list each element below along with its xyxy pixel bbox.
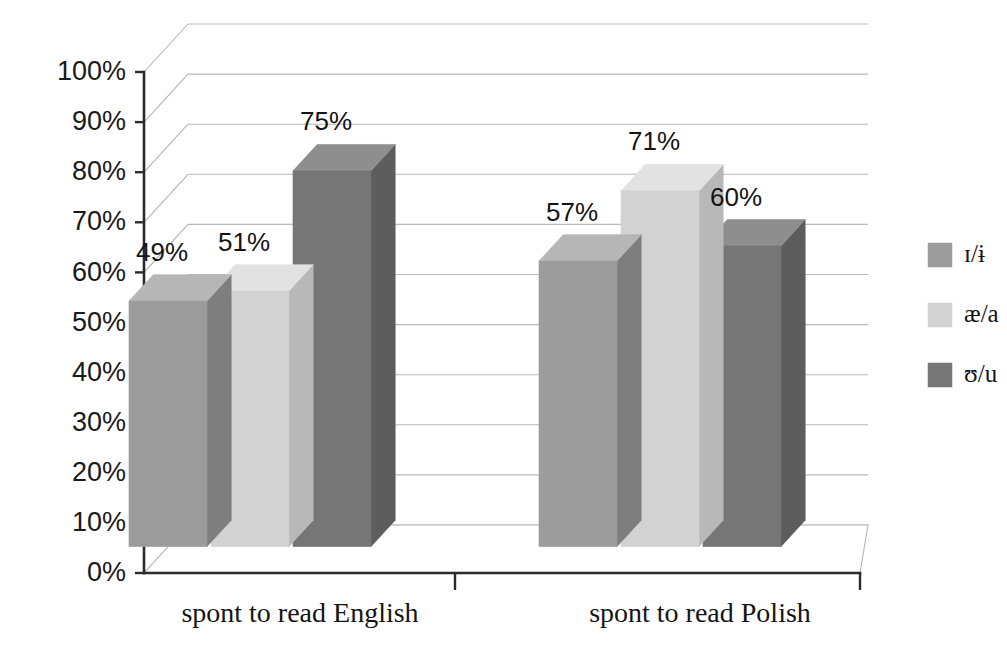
x-category-label: spont to read Polish — [589, 597, 811, 628]
value-label: 51% — [218, 227, 270, 257]
x-category-label: spont to read English — [181, 597, 418, 628]
value-label: 49% — [136, 237, 188, 267]
legend-swatch — [928, 243, 952, 267]
legend-label: ʊ/u — [964, 360, 998, 387]
legend-swatch — [928, 303, 952, 327]
legend-swatch — [928, 363, 952, 387]
y-tick-label: 50% — [72, 307, 126, 337]
y-tick-label: 30% — [72, 407, 126, 437]
legend-item-2[interactable]: æ/a — [928, 300, 999, 327]
value-label: 57% — [546, 197, 598, 227]
bar-1-1 — [129, 275, 231, 547]
y-tick-label: 100% — [57, 56, 126, 86]
bar-side-face — [371, 144, 395, 546]
y-tick-label: 10% — [72, 507, 126, 537]
y-tick-label: 20% — [72, 457, 126, 487]
bar-front-face — [539, 261, 617, 547]
value-label: 75% — [300, 106, 352, 136]
bar-side-face — [289, 265, 313, 547]
bar-side-face — [781, 220, 805, 547]
y-tick-label: 40% — [72, 357, 126, 387]
y-tick-label: 0% — [87, 557, 126, 587]
value-label: 60% — [710, 182, 762, 212]
y-tick-label: 70% — [72, 206, 126, 236]
bar-side-face — [207, 275, 231, 547]
three-d-bar-chart: 100%90%80%70%60%50%40%30%20%10%0% 75%51%… — [0, 0, 1007, 652]
y-tick-label: 60% — [72, 257, 126, 287]
bar-front-face — [129, 301, 207, 546]
y-tick-label: 80% — [72, 156, 126, 186]
chart-container: 100%90%80%70%60%50%40%30%20%10%0% 75%51%… — [0, 0, 1007, 652]
value-label: 71% — [628, 126, 680, 156]
bar-side-face — [617, 235, 641, 547]
bar-2-1 — [539, 235, 641, 547]
bar-side-face — [699, 164, 723, 546]
legend-label: æ/a — [964, 300, 999, 327]
legend-label: ɪ/ɨ — [964, 240, 985, 267]
y-tick-label: 90% — [72, 106, 126, 136]
